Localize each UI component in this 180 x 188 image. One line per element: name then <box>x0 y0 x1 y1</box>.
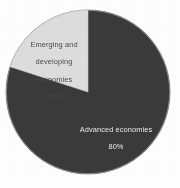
pie-chart-figure: Emerging and developing economies 20% Ad… <box>0 0 180 188</box>
pie-chart-svg <box>0 0 180 188</box>
